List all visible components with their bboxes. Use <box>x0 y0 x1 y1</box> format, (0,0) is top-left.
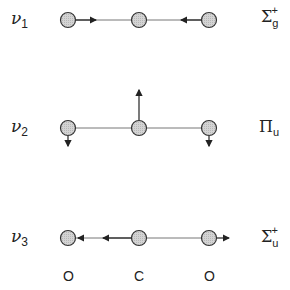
atom-label-oxygen-left: O <box>63 268 74 284</box>
mode-3-label: ν3 <box>11 226 28 249</box>
mode-1-molecule <box>61 13 217 28</box>
mode-3-symmetry: Σu+ <box>261 226 285 249</box>
mode-1-symmetry: Σg+ <box>261 6 285 29</box>
mode-2-symmetry: Πu <box>259 117 279 138</box>
mode-2-molecule <box>61 90 217 146</box>
mode-2-label: ν2 <box>11 116 28 139</box>
mode-3-molecule <box>61 231 230 246</box>
vibration-diagram <box>0 0 290 290</box>
atom-label-carbon: C <box>134 268 144 284</box>
mode-1-label: ν1 <box>11 8 28 31</box>
atom-label-oxygen-right: O <box>204 268 215 284</box>
